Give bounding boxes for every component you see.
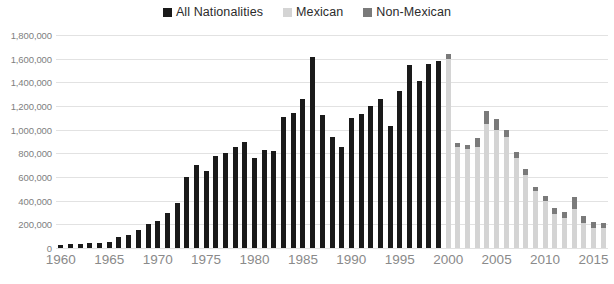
bar-column[interactable] (194, 165, 199, 248)
bar-column[interactable] (494, 119, 499, 248)
bar-column[interactable] (504, 130, 509, 248)
bar-segment-non-mexican (543, 196, 548, 201)
bar-column[interactable] (68, 244, 73, 248)
bar-column[interactable] (58, 245, 63, 248)
bar-column[interactable] (271, 151, 276, 248)
x-axis-tick-label: 1995 (385, 252, 415, 267)
bar-segment-all-nationalities (194, 165, 199, 248)
x-axis: 1960196519701975198019851990199520002005… (56, 252, 608, 276)
bar-column[interactable] (339, 147, 344, 248)
bar-column[interactable] (87, 243, 92, 248)
bar-segment-all-nationalities (233, 147, 238, 248)
bar-column[interactable] (562, 212, 567, 248)
bar-segment-mexican (533, 191, 538, 248)
bar-column[interactable] (591, 222, 596, 248)
bar-column[interactable] (475, 138, 480, 248)
bar-column[interactable] (78, 244, 83, 248)
bar-column[interactable] (310, 57, 315, 248)
bar-column[interactable] (484, 111, 489, 248)
y-axis-tick-label: 1,600,000 (11, 53, 52, 64)
bar-column[interactable] (165, 213, 170, 249)
bar-segment-all-nationalities (68, 244, 73, 248)
bar-segment-all-nationalities (310, 57, 315, 248)
legend-item-all-nationalities[interactable]: All Nationalities (163, 5, 263, 19)
chart-legend: All Nationalities Mexican Non-Mexican (0, 2, 614, 22)
bar-column[interactable] (455, 143, 460, 248)
bar-segment-mexican (572, 209, 577, 248)
legend-label-mexican: Mexican (296, 5, 343, 19)
bar-segment-all-nationalities (97, 243, 102, 248)
bar-column[interactable] (601, 223, 606, 248)
bar-column[interactable] (242, 142, 247, 249)
bar-column[interactable] (349, 118, 354, 248)
x-axis-tick-label: 2005 (482, 252, 512, 267)
bar-column[interactable] (136, 230, 141, 248)
bar-column[interactable] (581, 216, 586, 248)
bar-column[interactable] (388, 126, 393, 248)
bar-segment-all-nationalities (136, 230, 141, 248)
bar-column[interactable] (446, 54, 451, 248)
bar-column[interactable] (543, 196, 548, 248)
bar-column[interactable] (233, 147, 238, 248)
bar-segment-mexican (475, 147, 480, 248)
bar-column[interactable] (126, 235, 131, 248)
bar-column[interactable] (252, 158, 257, 248)
bar-segment-all-nationalities (223, 153, 228, 248)
bar-column[interactable] (281, 117, 286, 248)
bar-segment-all-nationalities (388, 126, 393, 248)
bar-column[interactable] (107, 242, 112, 249)
bar-column[interactable] (368, 106, 373, 248)
bar-column[interactable] (359, 114, 364, 248)
bar-column[interactable] (426, 64, 431, 248)
bar-column[interactable] (572, 197, 577, 248)
bar-column[interactable] (300, 99, 305, 248)
bar-segment-mexican (562, 218, 567, 248)
bar-column[interactable] (116, 237, 121, 248)
bar-column[interactable] (417, 81, 422, 248)
bar-column[interactable] (330, 137, 335, 248)
plot-area (56, 35, 608, 248)
bar-column[interactable] (291, 113, 296, 248)
legend-swatch-all-nationalities-icon (163, 8, 172, 17)
bar-segment-all-nationalities (436, 61, 441, 248)
bar-segment-non-mexican (581, 216, 586, 223)
legend-item-mexican[interactable]: Mexican (283, 5, 343, 19)
bar-column[interactable] (436, 61, 441, 248)
bar-segment-non-mexican (455, 143, 460, 147)
y-axis-tick-label: 1,800,000 (11, 30, 52, 41)
bar-segment-mexican (552, 214, 557, 248)
bar-column[interactable] (155, 221, 160, 248)
bar-column[interactable] (213, 156, 218, 248)
bar-column[interactable] (523, 169, 528, 248)
bar-column[interactable] (533, 187, 538, 248)
bar-column[interactable] (514, 152, 519, 248)
bar-column[interactable] (175, 203, 180, 248)
bar-series-container (56, 35, 608, 248)
legend-swatch-non-mexican-icon (363, 8, 372, 17)
bar-column[interactable] (397, 91, 402, 248)
bar-segment-all-nationalities (126, 235, 131, 248)
bar-column[interactable] (262, 150, 267, 248)
bar-column[interactable] (204, 171, 209, 248)
bar-column[interactable] (552, 208, 557, 248)
bar-segment-all-nationalities (184, 177, 189, 248)
bar-column[interactable] (223, 153, 228, 248)
bar-column[interactable] (407, 65, 412, 248)
bar-column[interactable] (97, 243, 102, 248)
bar-segment-all-nationalities (155, 221, 160, 248)
bar-segment-all-nationalities (58, 245, 63, 248)
bar-segment-all-nationalities (417, 81, 422, 248)
x-axis-tick-label: 1985 (288, 252, 318, 267)
bar-column[interactable] (378, 99, 383, 248)
bar-segment-mexican (514, 158, 519, 248)
bar-segment-mexican (484, 124, 489, 248)
y-axis-tick-label: 800,000 (18, 148, 52, 159)
y-axis-tick-label: 200,000 (18, 219, 52, 230)
bar-column[interactable] (184, 177, 189, 248)
bar-segment-all-nationalities (426, 64, 431, 248)
bar-column[interactable] (320, 115, 325, 248)
bar-column[interactable] (465, 145, 470, 248)
legend-item-non-mexican[interactable]: Non-Mexican (363, 5, 451, 19)
bar-segment-non-mexican (494, 119, 499, 130)
bar-column[interactable] (146, 224, 151, 248)
